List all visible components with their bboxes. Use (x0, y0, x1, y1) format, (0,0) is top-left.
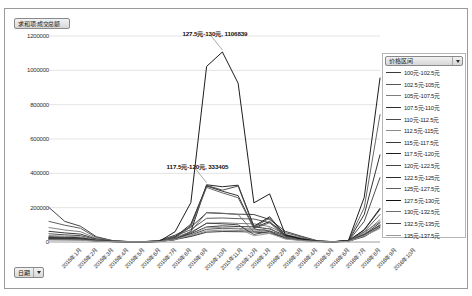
legend-item-label: 100元-102.5元 (404, 68, 440, 77)
legend-item-label: 107.5元-110元 (404, 103, 439, 112)
legend-item[interactable]: 115元-117.5元 (383, 137, 465, 149)
legend-color-swatch (386, 107, 401, 108)
legend-item-list: 100元-102.5元102.5元-105元105元-107.5元107.5元-… (383, 67, 465, 241)
legend-item[interactable]: 102.5元-105元 (383, 79, 465, 91)
legend-item[interactable]: 105元-107.5元 (383, 90, 465, 102)
legend-item[interactable]: 127.5元-130元 (383, 195, 465, 207)
chevron-down-icon[interactable] (452, 57, 462, 65)
legend-color-swatch (386, 211, 401, 212)
legend-color-swatch (386, 153, 401, 154)
legend-item[interactable]: 132.5元-135元 (383, 218, 465, 230)
legend-item-label: 125元-127.5元 (404, 184, 440, 193)
legend-color-swatch (386, 200, 401, 201)
legend-item[interactable]: 117.5元-120元 (383, 148, 465, 160)
chart-frame: 求和项:成交总额 日期 127.5元-130元, 1106839117.5元-1… (4, 8, 468, 289)
legend-color-swatch (386, 235, 401, 236)
legend-color-swatch (386, 223, 401, 224)
legend-item[interactable]: 110元-112.5元 (383, 113, 465, 125)
legend-item-label: 112.5元-115元 (404, 126, 439, 135)
legend-item-label: 130元-132.5元 (404, 207, 440, 216)
legend-color-swatch (386, 177, 401, 178)
legend-item[interactable]: 120元-122.5元 (383, 160, 465, 172)
legend-item[interactable]: 135元-137.5元 (383, 229, 465, 241)
legend-color-swatch (386, 119, 401, 120)
legend-item-label: 105元-107.5元 (404, 91, 440, 100)
legend-color-swatch (386, 84, 401, 85)
legend-color-swatch (386, 72, 401, 73)
legend-item-label: 110元-112.5元 (404, 115, 439, 124)
legend-color-swatch (386, 95, 401, 96)
legend-color-swatch (386, 165, 401, 166)
legend-item[interactable]: 130元-132.5元 (383, 206, 465, 218)
legend-item-label: 117.5元-120元 (404, 149, 439, 158)
legend-filter-button[interactable]: 价格区间 (385, 56, 463, 66)
legend-item-label: 127.5元-130元 (404, 196, 440, 205)
legend-item[interactable]: 107.5元-110元 (383, 102, 465, 114)
legend-item[interactable]: 112.5元-115元 (383, 125, 465, 137)
legend-filter-label: 价格区间 (386, 58, 413, 64)
legend-item[interactable]: 125元-127.5元 (383, 183, 465, 195)
legend-color-swatch (386, 130, 401, 131)
legend-color-swatch (386, 188, 401, 189)
legend-item[interactable]: 122.5元-125元 (383, 171, 465, 183)
legend-item[interactable]: 100元-102.5元 (383, 67, 465, 79)
legend-item-label: 115元-117.5元 (404, 138, 439, 147)
legend-color-swatch (386, 142, 401, 143)
legend-item-label: 122.5元-125元 (404, 173, 440, 182)
legend-item-label: 132.5元-135元 (404, 219, 440, 228)
legend: 价格区间 100元-102.5元102.5元-105元105元-107.5元10… (382, 53, 466, 238)
legend-item-label: 120元-122.5元 (404, 161, 440, 170)
legend-item-label: 102.5元-105元 (404, 80, 440, 89)
legend-item-label: 135元-137.5元 (404, 231, 440, 240)
